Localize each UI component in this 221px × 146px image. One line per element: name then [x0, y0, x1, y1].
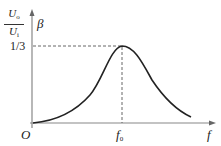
x-tick-label-f0: f0 [116, 128, 123, 143]
beta-label: β [37, 17, 43, 30]
diagram-canvas [0, 0, 221, 146]
origin-label: O [21, 128, 30, 141]
x-axis-label: f [207, 128, 211, 141]
y-axis-fraction-label: Uo Ui [3, 8, 25, 41]
y-tick-label-one-third: 1/3 [10, 40, 25, 52]
response-curve [33, 46, 191, 123]
frequency-response-diagram: Uo Ui β 1/3 O f0 f [0, 0, 221, 146]
y-axis-arrow-icon [30, 9, 35, 16]
x-axis-arrow-icon [209, 121, 216, 126]
